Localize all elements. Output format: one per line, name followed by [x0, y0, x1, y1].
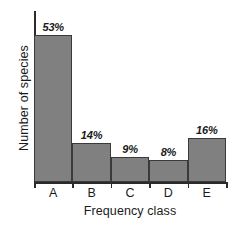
x-tick-label-b: B [72, 186, 110, 200]
bar-column-c: 9% [111, 9, 149, 182]
x-axis-tick-labels: ABCDE [34, 186, 226, 202]
bar-value-label-a: 53% [42, 21, 63, 33]
bar-series: 53%14%9%8%16% [34, 11, 226, 184]
bar-value-label-b: 14% [81, 129, 102, 141]
x-tick-5 [226, 182, 228, 188]
bar-value-label-c: 9% [122, 143, 138, 155]
plot-area: 53%14%9%8%16% [34, 11, 226, 184]
bar-chart-figure: Number of species 53%14%9%8%16% ABCDE Fr… [0, 0, 241, 227]
bar-a [34, 35, 72, 182]
bar-column-b: 14% [72, 9, 110, 182]
y-axis-title: Number of species [14, 8, 34, 188]
bar-value-label-e: 16% [196, 124, 217, 136]
x-tick-label-e: E [188, 186, 226, 200]
x-tick-label-a: A [34, 186, 72, 200]
bar-b [72, 143, 110, 182]
bar-e [188, 138, 226, 182]
bar-column-e: 16% [188, 9, 226, 182]
bar-d [149, 160, 187, 182]
bar-column-d: 8% [149, 9, 187, 182]
x-tick-label-d: D [149, 186, 187, 200]
bar-c [111, 157, 149, 182]
bar-column-a: 53% [34, 9, 72, 182]
x-axis-title: Frequency class [34, 204, 226, 218]
x-tick-label-c: C [111, 186, 149, 200]
bar-value-label-d: 8% [161, 146, 177, 158]
